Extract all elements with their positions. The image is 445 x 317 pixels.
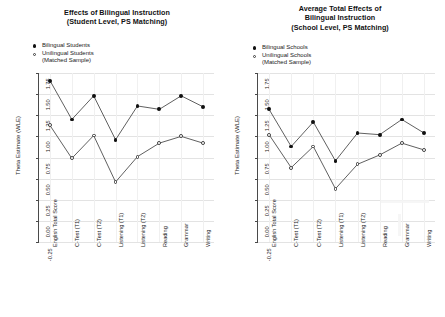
data-point: [136, 104, 140, 108]
open-circle-icon: [253, 55, 256, 58]
series-lines: [39, 73, 214, 242]
legend-school-level: Bilingual Schools Unilingual Schools (Ma…: [251, 44, 311, 67]
panel-student-level: Effects of Bilingual Instruction (Studen…: [0, 0, 222, 317]
legend-item-bilingual-students: Bilingual Students: [31, 42, 94, 50]
data-point: [378, 153, 382, 157]
data-point: [267, 133, 271, 137]
data-point: [201, 141, 205, 145]
legend-label: Unilingual Students: [42, 50, 94, 56]
y-axis-tick-label: -0.25: [47, 248, 53, 261]
data-point: [334, 159, 338, 163]
chart-title-line-1: Effects of Bilingual Instruction: [18, 8, 216, 17]
legend-label: Bilingual Schools: [262, 44, 308, 50]
data-point: [378, 133, 382, 137]
y-axis-label-school-level: Theta Estimate (WLE): [234, 116, 240, 175]
data-point: [422, 148, 426, 152]
data-point: [400, 118, 404, 122]
y-axis-tick: [36, 242, 39, 243]
open-circle-icon: [33, 53, 36, 56]
data-point: [201, 105, 205, 109]
y-axis-label-student-level: Theta Estimate (WLE): [15, 116, 21, 175]
legend-item-unilingual-schools: Unilingual Schools (Matched Sample): [251, 52, 311, 67]
data-point: [92, 94, 96, 98]
chart-title-line-1: Average Total Effects of: [241, 4, 439, 13]
data-point: [400, 141, 404, 145]
data-point: [70, 118, 74, 122]
data-point: [136, 155, 140, 159]
legend-item-bilingual-schools: Bilingual Schools: [251, 44, 311, 52]
chart-title-line-2: (Student Level, PS Matching): [18, 17, 216, 26]
figure-two-panel-line-charts: Effects of Bilingual Instruction (Studen…: [0, 0, 445, 317]
data-point: [422, 131, 426, 135]
scan-artifact: [381, 200, 429, 203]
data-point: [179, 94, 183, 98]
legend-sublabel: (Matched Sample): [262, 59, 311, 67]
panel-school-level: Average Total Effects of Bilingual Instr…: [223, 0, 445, 317]
chart-title-line-3: (School Level, PS Matching): [241, 23, 439, 32]
plot-area-student-level: 1.751.501.251.000.750.500.250.00-0.25Eng…: [38, 73, 214, 242]
chart-title-student-level: Effects of Bilingual Instruction (Studen…: [18, 8, 216, 27]
data-point: [92, 134, 96, 138]
data-point: [334, 187, 338, 191]
y-axis-tick-label: -0.25: [266, 248, 272, 261]
legend-student-level: Bilingual Students Unilingual Students (…: [31, 42, 94, 65]
legend-sublabel: (Matched Sample): [42, 57, 94, 65]
data-point: [48, 79, 52, 83]
legend-item-unilingual-students: Unilingual Students (Matched Sample): [31, 50, 94, 65]
chart-title-line-2: Bilingual Instruction: [241, 13, 439, 22]
scan-artifact: [398, 214, 401, 236]
y-axis-tick: [255, 242, 258, 243]
chart-title-school-level: Average Total Effects of Bilingual Instr…: [241, 4, 439, 32]
filled-circle-icon: [253, 46, 256, 49]
plot-area-school-level: 1.751.501.251.000.750.500.250.00-0.25Eng…: [257, 73, 435, 242]
legend-label: Unilingual Schools: [262, 52, 311, 58]
legend-label: Bilingual Students: [42, 42, 90, 48]
series-lines: [258, 73, 435, 242]
data-point: [70, 156, 74, 160]
data-point: [289, 166, 293, 170]
filled-circle-icon: [33, 44, 36, 47]
